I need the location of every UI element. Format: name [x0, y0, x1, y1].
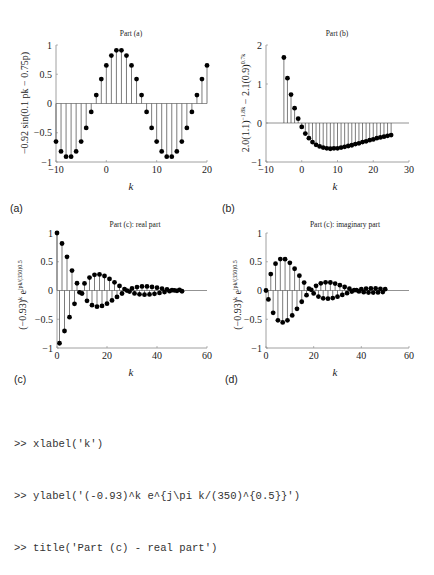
stem-marker — [132, 291, 137, 296]
stem-marker — [119, 48, 124, 53]
stem-marker — [271, 310, 276, 315]
plot-panel-c: Part (c): real part 020406010.50−0.5−1 (… — [0, 210, 217, 385]
stem-marker — [316, 294, 321, 299]
stem-marker — [64, 154, 69, 159]
stem-marker — [285, 76, 290, 81]
y-axis-label: (−0.93)k ejpk/(350)0.5 — [232, 260, 244, 330]
stem-marker — [307, 136, 312, 141]
code-line: >> ylabel('(-0.93)^k e^{j\pi k/(350)^{0.… — [14, 488, 345, 505]
stem-marker — [144, 110, 149, 115]
x-tick-label: 0 — [264, 350, 269, 361]
y-axis-label: (−0.93)k ejpk/(350)0.5 — [17, 260, 29, 330]
y-tick-label: 0.5 — [40, 69, 53, 80]
y-tick-label: 0 — [257, 285, 262, 296]
stem-marker — [345, 291, 350, 296]
stem-marker — [84, 126, 89, 131]
stem-marker — [129, 63, 134, 68]
axes: −100102010.50−0.5−1 — [34, 40, 212, 176]
stem-marker — [90, 303, 95, 308]
plot-title: Part (c): imaginary part — [310, 220, 381, 229]
x-tick-label: 0 — [299, 164, 304, 175]
stem-marker — [281, 55, 286, 60]
stem-marker — [303, 131, 308, 136]
x-axis-label: k — [333, 180, 339, 192]
stem-marker — [169, 154, 174, 159]
stem-marker — [174, 149, 179, 154]
y-tick-label: 0.5 — [250, 256, 263, 267]
matlab-code-block: >> xlabel('k') >> ylabel('(-0.93)^k e^{j… — [14, 402, 345, 575]
stem-marker — [79, 139, 84, 144]
stem-marker — [371, 290, 376, 295]
plot-panel-d: Part (c): imaginary part 020406010.50−0.… — [217, 210, 434, 385]
y-axis-label: −0.92 sin(0.1 pk − 0.75p) — [19, 52, 31, 154]
stem-marker — [268, 272, 273, 277]
stem-marker — [299, 299, 304, 304]
x-axis-label: k — [129, 180, 135, 192]
stem-marker — [340, 293, 345, 298]
plot-panel-a: Part (a) −100102010.50−0.5−1 −0.92 sin(0… — [0, 0, 217, 200]
stem-marker — [87, 275, 92, 280]
stem-marker — [134, 77, 139, 82]
x-tick-label: 20 — [368, 164, 378, 175]
axes: 020406010.50−0.5−1 — [244, 228, 414, 362]
stem-marker — [311, 291, 316, 296]
stem-marker — [70, 268, 75, 273]
stem-marker — [335, 294, 340, 299]
y-tick-label: −1 — [251, 157, 262, 168]
axes: 020406010.50−0.5−1 — [35, 228, 212, 362]
stem-marker — [290, 313, 295, 318]
stem-marker — [142, 292, 147, 297]
x-axis-label: k — [129, 366, 135, 378]
stem-marker — [60, 241, 65, 246]
y-tick-label: 0 — [48, 285, 53, 296]
stem-marker — [323, 280, 328, 285]
stem-marker — [330, 296, 335, 301]
stem-marker — [296, 116, 301, 121]
stem-marker — [110, 298, 115, 303]
stem-marker — [266, 297, 271, 302]
stem-marker — [297, 273, 302, 278]
code-line: >> xlabel('k') — [14, 436, 345, 453]
stem-marker — [292, 266, 297, 271]
y-tick-label: 2 — [257, 40, 262, 51]
plot-title: Part (a) — [120, 29, 143, 38]
plot-panel-b: Part (b) −100102030210−1 2.0(1.1)−1.8k −… — [217, 0, 434, 200]
stem-marker — [139, 93, 144, 98]
stem-marker — [135, 285, 140, 290]
stem-marker — [314, 283, 319, 288]
x-axis-label: k — [333, 366, 339, 378]
stem-marker — [149, 126, 154, 131]
stem-marker — [321, 296, 326, 301]
stem-marker — [147, 292, 152, 297]
stem-marker — [287, 260, 292, 265]
stem-marker — [109, 53, 114, 58]
stem-marker — [333, 281, 338, 286]
stem-marker — [62, 329, 67, 334]
stem-marker — [120, 291, 125, 296]
stem-marker — [326, 296, 331, 301]
stem-marker — [318, 281, 323, 286]
stem-marker — [159, 149, 164, 154]
stem-marker — [107, 276, 112, 281]
stem-marker — [80, 291, 85, 296]
stem-plot-d: Part (c): imaginary part 020406010.50−0.… — [217, 210, 434, 385]
x-tick-label: 0 — [104, 164, 109, 175]
stem-marker — [302, 280, 307, 285]
plot-title: Part (b) — [326, 29, 349, 38]
stem-plot-b: Part (b) −100102030210−1 2.0(1.1)−1.8k −… — [217, 0, 434, 200]
stem-marker — [102, 274, 107, 279]
stem-marker — [97, 272, 102, 277]
stem-marker — [74, 149, 79, 154]
stem-marker — [285, 318, 290, 323]
x-tick-label: 20 — [102, 350, 112, 361]
y-tick-label: −1 — [251, 343, 262, 354]
stem-marker — [117, 284, 122, 289]
stem-marker — [292, 106, 297, 111]
x-tick-label: 20 — [202, 164, 212, 175]
stem-marker — [337, 283, 342, 288]
stem-marker — [130, 286, 135, 291]
y-tick-label: 1 — [257, 228, 262, 239]
stem-marker — [69, 154, 74, 159]
stem-marker — [72, 301, 77, 306]
y-axis-label: 2.0(1.1)−1.8k − 2.1(0.9)0.7k — [240, 54, 252, 152]
